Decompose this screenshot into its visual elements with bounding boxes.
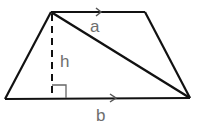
height-label-h: h <box>60 53 69 70</box>
diagonal-label-a: a <box>90 18 99 35</box>
bottom-base-edge <box>5 98 190 99</box>
left-leg-edge <box>5 12 51 99</box>
right-angle-marker-icon <box>52 85 66 98</box>
diagonal-a-line <box>51 12 190 98</box>
trapezoid-diagram: a h b <box>0 0 197 131</box>
base-label-b: b <box>96 107 105 124</box>
